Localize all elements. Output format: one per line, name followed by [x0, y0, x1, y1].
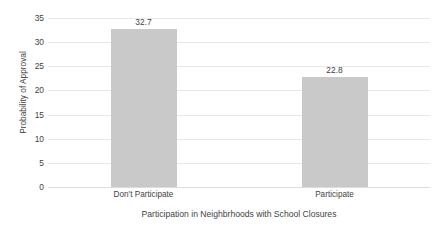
bar-data-label: 22.8 [302, 65, 368, 75]
gridline [48, 18, 430, 19]
bar [302, 77, 368, 187]
bar-chart: Probability of Approval 05101520253035 3… [0, 0, 440, 237]
y-axis-tick-labels: 05101520253035 [0, 18, 44, 187]
y-axis-tick-label: 25 [4, 61, 44, 71]
gridline [48, 66, 430, 67]
gridline [48, 139, 430, 140]
y-axis-tick-label: 20 [4, 85, 44, 95]
x-axis-category-label: Participate [239, 190, 430, 199]
y-axis-tick-label: 10 [4, 134, 44, 144]
gridline [48, 90, 430, 91]
gridline [48, 187, 430, 188]
x-axis-title: Participation in Neighbrhoods with Schoo… [48, 209, 430, 219]
bar [111, 29, 177, 187]
gridline [48, 115, 430, 116]
bar-data-label: 32.7 [111, 17, 177, 27]
gridline [48, 42, 430, 43]
y-axis-tick-label: 15 [4, 110, 44, 120]
x-axis-category-labels: Don't ParticipateParticipate [48, 190, 430, 204]
plot-area: 32.722.8 [48, 18, 430, 187]
x-axis-category-label: Don't Participate [48, 190, 239, 199]
y-axis-tick-label: 5 [4, 158, 44, 168]
y-axis-tick-label: 35 [4, 13, 44, 23]
y-axis-tick-label: 0 [4, 182, 44, 192]
y-axis-tick-label: 30 [4, 37, 44, 47]
gridline [48, 163, 430, 164]
